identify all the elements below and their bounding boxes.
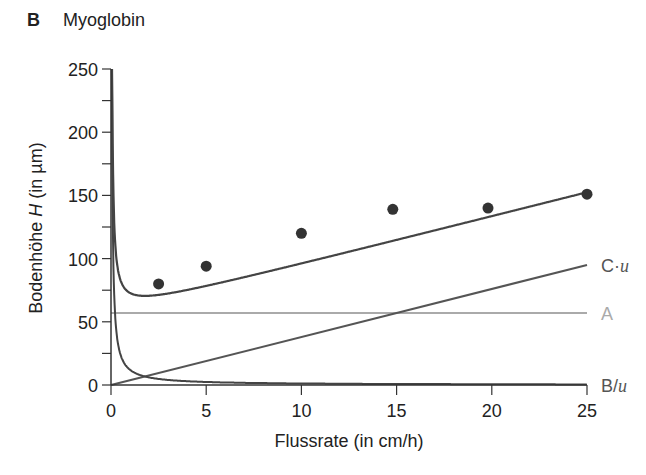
x-tick-label: 0: [106, 401, 116, 421]
data-point: [201, 261, 212, 272]
data-point: [296, 228, 307, 239]
x-tick-label: 15: [387, 401, 407, 421]
y-tick-label: 250: [68, 60, 98, 80]
curve-label-a: A: [601, 304, 613, 324]
x-tick-label: 25: [577, 401, 597, 421]
cu-line: [111, 265, 587, 385]
plate-height-chart: 0501001502002500510152025Flussrate (in c…: [0, 0, 646, 475]
x-axis-label: Flussrate (in cm/h): [274, 431, 423, 451]
data-point: [153, 278, 164, 289]
y-axis-label: Bodenhöhe H (in µm): [26, 142, 46, 313]
x-tick-label: 20: [482, 401, 502, 421]
y-tick-label: 100: [68, 250, 98, 270]
curve-label-cu: C·u: [601, 256, 629, 276]
data-point: [582, 189, 593, 200]
y-tick-label: 50: [78, 313, 98, 333]
x-tick-label: 5: [201, 401, 211, 421]
y-tick-label: 200: [68, 123, 98, 143]
y-tick-label: 0: [88, 376, 98, 396]
x-tick-label: 10: [291, 401, 311, 421]
data-point: [387, 204, 398, 215]
van-deemter-curve: [112, 69, 587, 296]
curve-label-bu: B/u: [601, 376, 627, 396]
data-point: [482, 203, 493, 214]
y-tick-label: 150: [68, 186, 98, 206]
b-over-u-curve: [112, 69, 587, 384]
